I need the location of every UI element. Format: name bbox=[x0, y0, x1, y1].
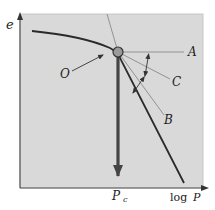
line-c-label: C bbox=[172, 75, 181, 89]
line-b-label: B bbox=[163, 113, 173, 127]
pc-label: P c bbox=[111, 189, 128, 204]
x-axis-label-var: P bbox=[192, 191, 201, 204]
point-o-label: O bbox=[60, 67, 70, 81]
pc-label-main: P bbox=[111, 189, 121, 203]
plot-area bbox=[20, 14, 203, 188]
max-curvature-point bbox=[113, 47, 123, 57]
pc-label-sub: c bbox=[123, 195, 128, 204]
y-axis-label: e bbox=[6, 17, 14, 32]
x-axis-label: log P bbox=[170, 191, 201, 204]
x-axis-label-log: log bbox=[170, 191, 187, 204]
line-a-label: A bbox=[187, 45, 197, 59]
casagrande-diagram: e log P O A C B P c bbox=[0, 0, 215, 210]
